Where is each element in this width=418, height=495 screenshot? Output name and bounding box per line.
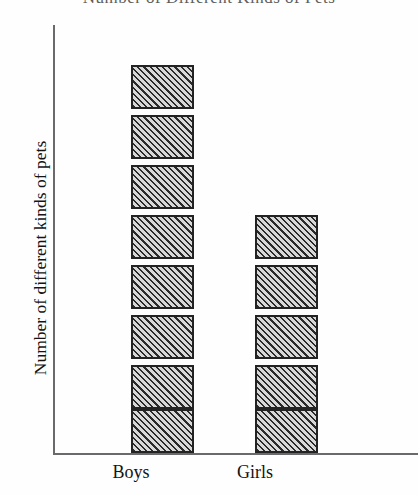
bar-unit-block [131, 265, 194, 309]
bar-column-boys [131, 59, 194, 453]
bar-unit-block [255, 215, 318, 259]
bar-unit-block [255, 315, 318, 359]
x-axis-line [53, 453, 418, 455]
bar-unit-block [131, 65, 194, 109]
bar-unit-block [255, 365, 318, 409]
bar-unit-block [131, 365, 194, 409]
chart-figure: Number of Different Kinds of Pets Number… [0, 0, 418, 495]
bar-unit-block [131, 315, 194, 359]
bar-unit-block [131, 115, 194, 159]
chart-title-cropped: Number of Different Kinds of Pets [0, 0, 418, 7]
plot-area [53, 25, 418, 453]
bar-unit-block [131, 409, 194, 453]
y-axis-label: Number of different kinds of pets [27, 88, 53, 428]
bar-unit-block [255, 409, 318, 453]
bar-unit-block [131, 165, 194, 209]
chart-title-text: Number of Different Kinds of Pets [83, 0, 336, 6]
bar-unit-block [131, 215, 194, 259]
x-tick-label-girls: Girls [195, 460, 315, 484]
bar-column-girls [255, 209, 318, 453]
x-tick-label-boys: Boys [71, 460, 191, 484]
bar-unit-block [255, 265, 318, 309]
